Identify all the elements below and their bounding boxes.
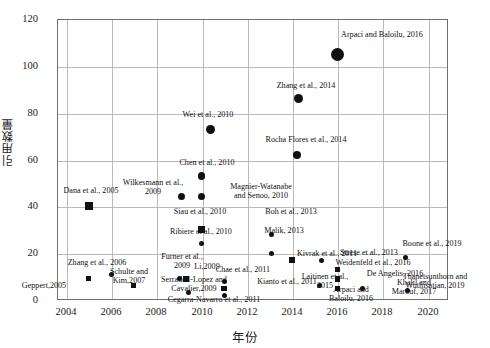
point-label: Thanetsunthorn and Wuthisatian, 2019 — [383, 272, 487, 291]
point-label: Strese et al., 2013 — [325, 248, 413, 257]
data-point-marker — [109, 272, 114, 277]
point-label: Zhang et al., 2006 — [51, 258, 143, 267]
data-point-marker — [198, 172, 206, 180]
x-tick-label: 2010 — [177, 306, 227, 317]
point-label: Magnier-Watanabe and Senoo, 2010 — [213, 182, 309, 201]
point-label: Boh et al., 2013 — [250, 207, 332, 216]
x-tick-label: 2008 — [131, 306, 181, 317]
point-label: Chen et al., 2010 — [163, 158, 251, 167]
gridline-horizontal — [58, 114, 447, 115]
x-axis-title: 年份 — [0, 327, 490, 346]
y-tick-label: 0 — [0, 295, 38, 305]
data-point-marker — [405, 288, 410, 293]
data-point-marker — [85, 202, 93, 210]
data-point-marker — [131, 283, 136, 288]
point-label: Rocha Flores et al., 2014 — [244, 135, 368, 144]
point-label: Chae et al., 2011 — [201, 265, 285, 274]
x-tick-label: 2018 — [357, 306, 407, 317]
x-tick-label: 2006 — [86, 306, 136, 317]
data-point-marker — [403, 255, 408, 260]
data-point-marker — [183, 276, 189, 282]
x-tick-label: 2016 — [312, 306, 362, 317]
gridline-vertical — [429, 20, 430, 299]
point-label: Siau et al., 2010 — [158, 207, 242, 216]
gridline-horizontal — [58, 67, 447, 68]
point-label: Geppert,2005 — [8, 281, 80, 290]
point-label: Arpaci and Baloilu, 2016 — [316, 30, 448, 39]
x-tick-label: 2020 — [403, 306, 453, 317]
data-point-marker — [335, 276, 341, 282]
data-point-marker — [335, 286, 341, 292]
data-point-marker — [86, 276, 91, 281]
data-point-marker — [222, 279, 227, 284]
point-label: Malik, 2013 — [251, 226, 317, 235]
y-tick-label: 60 — [0, 155, 38, 165]
y-tick-label: 40 — [0, 201, 38, 211]
data-point-marker — [221, 286, 227, 292]
point-label: Arpaci and Baloilu, 2016 — [316, 285, 386, 304]
x-tick-label: 2004 — [41, 306, 91, 317]
y-tick-label: 120 — [0, 14, 38, 24]
data-point-marker — [206, 125, 215, 134]
x-tick-label: 2012 — [222, 306, 272, 317]
y-tick-label: 20 — [0, 248, 38, 258]
point-label: Dana et al., 2005 — [48, 186, 134, 195]
data-point-marker — [198, 226, 205, 233]
point-label: Boone et al., 2019 — [387, 239, 477, 248]
x-tick-label: 2014 — [267, 306, 317, 317]
gridline-horizontal — [58, 161, 447, 162]
y-tick-label: 80 — [0, 108, 38, 118]
point-label: Cegarra-Navarro et al., 2011 — [145, 295, 283, 304]
data-point-marker — [222, 293, 227, 298]
citation-scatter-figure: 引用数量 年份 20042006200820102012201420162018… — [0, 0, 490, 348]
data-point-marker — [293, 151, 301, 159]
data-point-marker — [335, 267, 341, 273]
data-point-marker — [360, 286, 365, 291]
point-label: Zhang et al., 2014 — [258, 81, 354, 90]
data-point-marker — [269, 251, 274, 256]
y-tick-label: 100 — [0, 61, 38, 71]
data-point-marker — [289, 257, 295, 263]
data-point-marker — [319, 258, 324, 263]
point-label: Wei et al., 2010 — [166, 110, 250, 119]
point-label: Serradell-Lopez and Cavalier,2009 — [144, 275, 244, 294]
data-point-marker — [331, 48, 344, 61]
